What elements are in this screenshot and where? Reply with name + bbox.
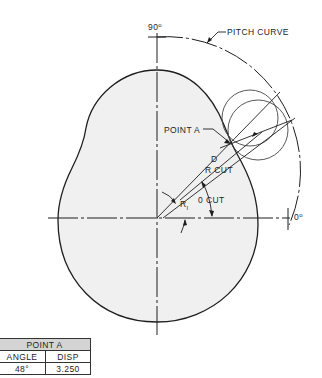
angle-0-label: 0o bbox=[294, 212, 303, 222]
table-title: POINT A bbox=[0, 339, 91, 351]
cell-angle: 48° bbox=[0, 363, 46, 375]
header-disp: DISP bbox=[46, 351, 91, 363]
pitch-curve-label: PITCH CURVE bbox=[227, 27, 289, 37]
d-label: D bbox=[211, 154, 218, 164]
point-a-label: POINT A bbox=[164, 125, 200, 135]
cell-disp: 3.250 bbox=[46, 363, 91, 375]
table-row: 48° 3.250 bbox=[0, 363, 91, 375]
point-a-table: POINT A ANGLE DISP 48° 3.250 bbox=[0, 338, 91, 375]
cam-profile bbox=[58, 70, 258, 322]
angle-90-label: 90o bbox=[148, 22, 162, 32]
r1-label: RI bbox=[180, 199, 189, 211]
header-angle: ANGLE bbox=[0, 351, 46, 363]
cam-diagram bbox=[0, 0, 322, 378]
theta-cut-label: 0 CUT bbox=[198, 195, 225, 205]
r-cut-label: R CUT bbox=[205, 165, 233, 175]
